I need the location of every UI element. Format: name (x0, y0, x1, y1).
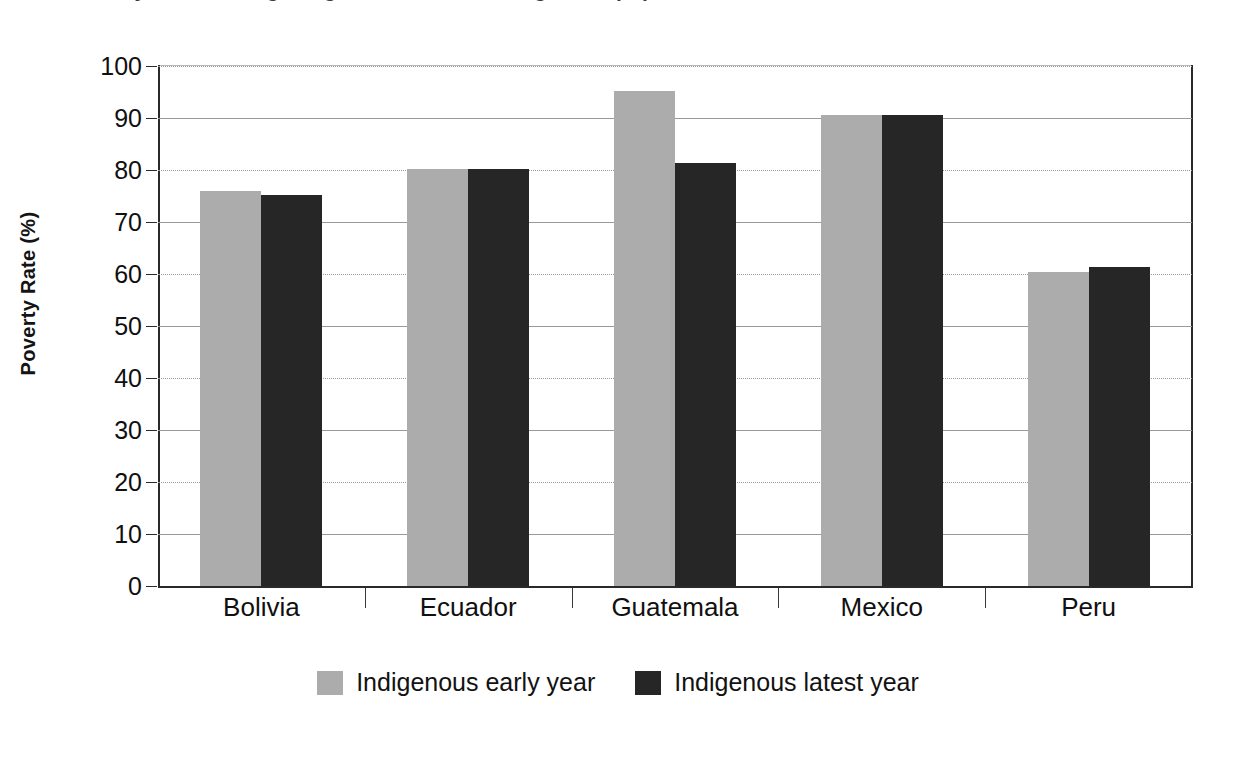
bar (468, 169, 529, 586)
legend-item: Indigenous latest year (635, 668, 919, 697)
x-axis-line (158, 586, 1193, 588)
bar-group (572, 66, 779, 586)
y-axis-title: Poverty Rate (%) (10, 0, 48, 586)
bar (675, 163, 736, 586)
bar (882, 115, 943, 586)
x-axis-label-guatemala: Guatemala (572, 592, 779, 623)
bar (1028, 272, 1089, 586)
y-tick-label: 10 (114, 520, 142, 549)
bar (614, 91, 675, 586)
chart-legend: Indigenous early yearIndigenous latest y… (0, 668, 1236, 697)
y-tick-mark (146, 534, 157, 535)
legend-label: Indigenous early year (356, 668, 595, 697)
bar-group (778, 66, 985, 586)
y-tick-label: 60 (114, 260, 142, 289)
bar-group (985, 66, 1192, 586)
x-axis-label-mexico: Mexico (778, 592, 985, 623)
y-tick-label: 50 (114, 312, 142, 341)
y-tick-label: 100 (100, 52, 142, 81)
bar (200, 191, 261, 586)
y-tick-label: 30 (114, 416, 142, 445)
legend-item: Indigenous early year (317, 668, 595, 697)
legend-swatch-icon (635, 671, 661, 695)
plot-area (158, 66, 1192, 586)
y-tick-label: 20 (114, 468, 142, 497)
y-tick-mark (146, 274, 157, 275)
y-tick-label: 0 (128, 572, 142, 601)
y-tick-mark (146, 118, 157, 119)
y-tick-mark (146, 430, 157, 431)
legend-label: Indigenous latest year (674, 668, 919, 697)
y-tick-mark (146, 170, 157, 171)
y-axis-title-text: Poverty Rate (%) (18, 211, 41, 375)
chart-title: Poverty rates among indigenous and non-i… (68, 0, 737, 2)
x-axis-label-bolivia: Bolivia (158, 592, 365, 623)
x-axis-label-peru: Peru (985, 592, 1192, 623)
legend-swatch-icon (317, 671, 343, 695)
y-tick-label: 80 (114, 156, 142, 185)
y-tick-mark (146, 66, 157, 67)
bar (821, 115, 882, 586)
y-tick-mark (146, 482, 157, 483)
chart-title-clipped: Poverty rates among indigenous and non-i… (0, 0, 1236, 4)
y-tick-mark (146, 378, 157, 379)
chart-figure: Poverty rates among indigenous and non-i… (0, 0, 1236, 765)
y-tick-mark (146, 326, 157, 327)
y-tick-label: 90 (114, 104, 142, 133)
bar-group (365, 66, 572, 586)
y-tick-label: 40 (114, 364, 142, 393)
x-axis-label-ecuador: Ecuador (365, 592, 572, 623)
bar-group (158, 66, 365, 586)
bar (407, 169, 468, 586)
bar (261, 195, 322, 586)
y-tick-mark (146, 222, 157, 223)
bar (1089, 267, 1150, 586)
y-tick-mark (146, 586, 157, 587)
y-tick-label: 70 (114, 208, 142, 237)
